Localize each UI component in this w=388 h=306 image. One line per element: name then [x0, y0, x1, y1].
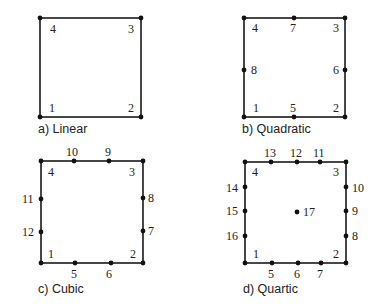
node-dot — [242, 16, 247, 21]
panel-quartic: 1234567891011121314151617d) Quartic — [226, 146, 364, 296]
node-dot — [343, 115, 348, 120]
node-dot — [243, 261, 248, 266]
panel-caption: d) Quartic — [243, 282, 298, 296]
node-label: 1 — [253, 247, 259, 261]
node-dot — [107, 159, 112, 164]
node-label: 9 — [352, 204, 358, 218]
node-dot — [243, 185, 248, 190]
node-label: 1 — [49, 101, 55, 115]
node-dot — [141, 261, 146, 266]
node-label: 11 — [22, 192, 34, 206]
node-label: 2 — [128, 101, 134, 115]
node-dot — [344, 261, 349, 266]
node-dot — [38, 115, 43, 120]
node-label: 7 — [290, 21, 296, 35]
panel-linear: 1234a) Linear — [38, 16, 144, 136]
node-dot — [141, 159, 146, 164]
panel-quadratic: 12345678b) Quadratic — [242, 16, 348, 136]
node-dot — [39, 261, 44, 266]
node-label: 16 — [226, 229, 238, 243]
node-label: 2 — [130, 247, 136, 261]
node-label: 6 — [294, 267, 300, 281]
node-dot — [295, 160, 300, 165]
node-dot — [344, 234, 349, 239]
node-label: 1 — [48, 247, 54, 261]
node-dot — [139, 16, 144, 21]
node-label: 17 — [303, 205, 315, 219]
node-dot — [343, 16, 348, 21]
node-label: 8 — [251, 63, 257, 77]
node-dot — [73, 261, 78, 266]
node-dot — [296, 261, 301, 266]
element-shape-functions-diagram: 1234a) Linear12345678b) Quadratic1234567… — [0, 0, 388, 306]
node-label: 2 — [333, 101, 339, 115]
panel-cubic: 123456789101112c) Cubic — [22, 145, 154, 296]
node-label: 6 — [106, 267, 112, 281]
node-label: 5 — [268, 267, 274, 281]
node-label: 14 — [226, 181, 238, 195]
node-label: 3 — [129, 165, 135, 179]
node-dot — [139, 115, 144, 120]
node-dot — [344, 209, 349, 214]
node-dot — [243, 160, 248, 165]
node-label: 10 — [66, 145, 78, 159]
node-dot — [344, 160, 349, 165]
cubic-element-boundary — [41, 161, 143, 263]
node-dot — [270, 261, 275, 266]
node-label: 3 — [333, 21, 339, 35]
node-dot — [39, 159, 44, 164]
node-dot — [109, 261, 114, 266]
node-dot — [318, 160, 323, 165]
panel-caption: a) Linear — [38, 122, 87, 136]
node-label: 8 — [148, 191, 154, 205]
node-dot — [72, 159, 77, 164]
node-dot — [242, 68, 247, 73]
panel-caption: b) Quadratic — [242, 122, 311, 136]
node-label: 4 — [252, 165, 258, 179]
node-dot — [319, 261, 324, 266]
node-label: 15 — [226, 204, 238, 218]
node-label: 4 — [50, 22, 56, 36]
node-label: 4 — [48, 165, 54, 179]
node-label: 7 — [148, 224, 154, 238]
node-label: 10 — [352, 181, 364, 195]
node-label: 4 — [252, 21, 258, 35]
node-dot — [269, 160, 274, 165]
node-label: 6 — [333, 63, 339, 77]
node-dot — [243, 209, 248, 214]
diagram-svg: 1234a) Linear12345678b) Quadratic1234567… — [0, 0, 388, 306]
node-dot — [141, 196, 146, 201]
node-dot — [141, 229, 146, 234]
node-label: 2 — [333, 247, 339, 261]
node-label: 3 — [128, 22, 134, 36]
panel-caption: c) Cubic — [38, 282, 84, 296]
node-label: 3 — [333, 165, 339, 179]
node-dot — [343, 68, 348, 73]
node-label: 5 — [71, 267, 77, 281]
node-dot — [242, 115, 247, 120]
node-dot — [39, 230, 44, 235]
node-dot — [38, 16, 43, 21]
node-dot — [243, 234, 248, 239]
node-label: 9 — [105, 145, 111, 159]
node-label: 12 — [22, 225, 34, 239]
node-label: 5 — [290, 101, 296, 115]
node-dot — [39, 197, 44, 202]
node-dot — [292, 16, 297, 21]
node-dot — [292, 115, 297, 120]
node-label: 13 — [264, 146, 276, 160]
node-label: 8 — [352, 229, 358, 243]
node-label: 7 — [317, 267, 323, 281]
node-dot — [344, 185, 349, 190]
node-dot — [295, 210, 300, 215]
node-label: 12 — [290, 146, 302, 160]
node-label: 1 — [253, 101, 259, 115]
node-label: 11 — [313, 146, 325, 160]
